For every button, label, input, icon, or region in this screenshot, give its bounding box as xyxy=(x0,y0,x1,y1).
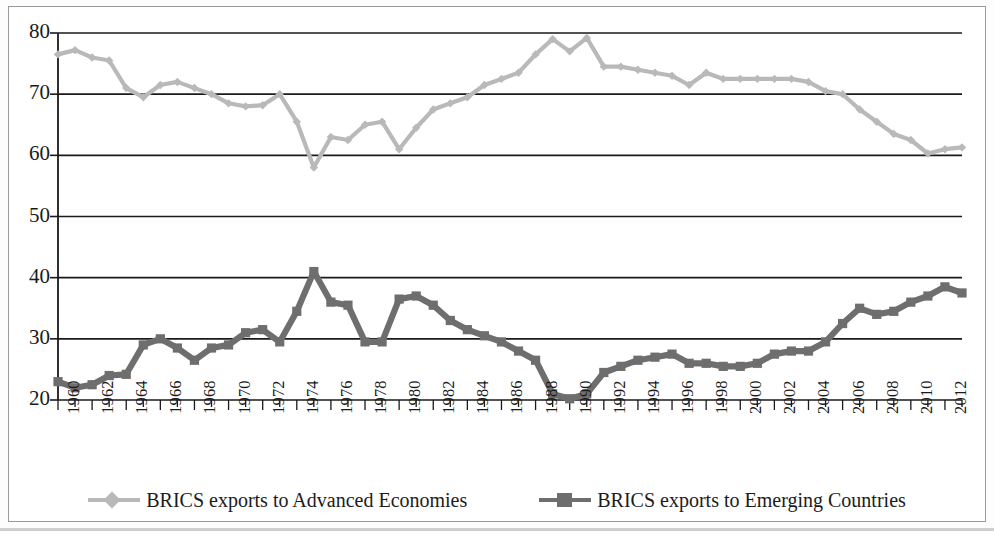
data-point-square xyxy=(940,282,949,291)
data-point-square xyxy=(343,301,352,310)
data-point-square xyxy=(224,340,233,349)
data-point-diamond xyxy=(241,102,249,110)
data-point-square xyxy=(616,362,625,371)
data-point-square xyxy=(702,359,711,368)
series-line-advanced-economies xyxy=(58,38,962,168)
y-axis-tick-label: 80 xyxy=(6,19,50,44)
data-point-square xyxy=(292,307,301,316)
data-point-square xyxy=(531,356,540,365)
x-axis-tick-label: 1980 xyxy=(405,380,425,414)
x-axis-tick-label: 2006 xyxy=(849,380,869,414)
data-point-square xyxy=(736,362,745,371)
data-point-square xyxy=(463,325,472,334)
x-axis-tick-label: 1986 xyxy=(507,380,527,414)
data-point-square xyxy=(872,310,881,319)
data-point-square xyxy=(906,298,915,307)
x-axis-tick-label: 2002 xyxy=(780,380,800,414)
y-axis-tick-label: 50 xyxy=(6,203,50,228)
data-point-square xyxy=(957,288,966,297)
data-point-square xyxy=(514,346,523,355)
x-axis-tick-label: 1996 xyxy=(678,380,698,414)
data-point-square xyxy=(923,291,932,300)
square-marker-icon xyxy=(539,491,591,509)
legend-label-advanced-economies: BRICS exports to Advanced Economies xyxy=(146,489,467,512)
data-point-square xyxy=(53,377,62,386)
x-axis-tick-label: 1990 xyxy=(576,380,596,414)
data-point-square xyxy=(429,301,438,310)
x-axis-tick-label: 1966 xyxy=(166,380,186,414)
data-point-diamond xyxy=(54,50,62,58)
data-point-square xyxy=(821,337,830,346)
data-point-square xyxy=(326,298,335,307)
x-axis-tick-label: 1994 xyxy=(644,380,664,414)
data-point-square xyxy=(156,334,165,343)
data-point-diamond xyxy=(634,66,642,74)
chart-legend: BRICS exports to Advanced Economies BRIC… xyxy=(0,483,994,517)
data-point-diamond xyxy=(617,62,625,70)
data-point-square xyxy=(684,359,693,368)
data-point-square xyxy=(889,307,898,316)
y-axis-tick-label: 60 xyxy=(6,141,50,166)
data-point-square xyxy=(190,356,199,365)
data-point-square xyxy=(139,340,148,349)
y-axis-tick-label: 20 xyxy=(6,386,50,411)
chart-canvas xyxy=(0,0,994,534)
data-point-square xyxy=(122,370,131,379)
x-axis-tick-label: 1998 xyxy=(712,380,732,414)
data-point-square xyxy=(412,291,421,300)
data-point-square xyxy=(480,331,489,340)
x-axis-tick-label: 1992 xyxy=(610,380,630,414)
x-axis-tick-label: 2010 xyxy=(917,380,937,414)
legend-entry-advanced-economies[interactable]: BRICS exports to Advanced Economies xyxy=(88,489,467,512)
legend-entry-emerging-countries[interactable]: BRICS exports to Emerging Countries xyxy=(539,489,906,512)
data-point-square xyxy=(275,337,284,346)
x-axis-tick-label: 1964 xyxy=(132,380,152,414)
x-axis-tick-label: 2008 xyxy=(883,380,903,414)
data-point-square xyxy=(446,316,455,325)
data-point-diamond xyxy=(941,145,949,153)
x-axis-tick-label: 1960 xyxy=(64,380,84,414)
data-point-square xyxy=(599,368,608,377)
data-point-square xyxy=(719,362,728,371)
data-point-square xyxy=(88,380,97,389)
data-point-diamond xyxy=(787,75,795,83)
x-axis-tick-label: 1988 xyxy=(542,380,562,414)
diamond-marker-icon xyxy=(88,491,140,509)
x-axis-tick-label: 1978 xyxy=(371,380,391,414)
data-point-diamond xyxy=(651,69,659,77)
x-axis-tick-label: 2012 xyxy=(951,380,971,414)
data-point-square xyxy=(360,337,369,346)
data-point-square xyxy=(633,356,642,365)
y-axis-tick-label: 30 xyxy=(6,325,50,350)
data-point-square xyxy=(838,319,847,328)
data-point-square xyxy=(105,371,114,380)
x-axis-tick-label: 1974 xyxy=(303,380,323,414)
data-point-square xyxy=(258,325,267,334)
data-point-square xyxy=(173,343,182,352)
data-point-diamond xyxy=(770,75,778,83)
data-point-square xyxy=(804,346,813,355)
data-point-square xyxy=(770,350,779,359)
data-point-square xyxy=(309,267,318,276)
data-series-group xyxy=(53,34,966,404)
x-axis-tick-label: 1982 xyxy=(439,380,459,414)
data-point-square xyxy=(565,394,574,403)
x-axis-tick-label: 2000 xyxy=(746,380,766,414)
data-point-square xyxy=(241,328,250,337)
bottom-rule xyxy=(0,528,994,531)
x-axis-tick-label: 1962 xyxy=(98,380,118,414)
data-point-square xyxy=(855,304,864,313)
data-point-diamond xyxy=(736,75,744,83)
data-point-square xyxy=(650,353,659,362)
data-point-diamond xyxy=(958,143,966,151)
x-axis-tick-label: 1976 xyxy=(337,380,357,414)
data-point-square xyxy=(377,337,386,346)
x-axis-tick-label: 1970 xyxy=(235,380,255,414)
x-axis-tick-label: 1968 xyxy=(200,380,220,414)
chart-figure: 20304050607080 1960196219641966196819701… xyxy=(0,0,994,534)
x-axis-tick-label: 1972 xyxy=(269,380,289,414)
x-axis-tick-label: 2004 xyxy=(814,380,834,414)
legend-label-emerging-countries: BRICS exports to Emerging Countries xyxy=(597,489,906,512)
data-point-square xyxy=(667,350,676,359)
data-point-diamond xyxy=(753,75,761,83)
